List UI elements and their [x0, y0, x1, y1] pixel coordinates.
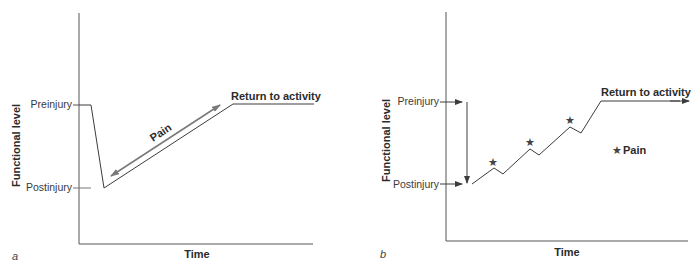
tick-label-preinjury: Preinjury [398, 95, 440, 107]
panel-letter-a: a [12, 250, 18, 262]
tick-label-postinjury: Postinjury [393, 178, 440, 190]
x-axis-title: Time [554, 246, 579, 258]
pain-arrow [111, 105, 220, 176]
pain-star-icon: ★ [488, 156, 498, 168]
panel-a: Functional level Preinjury Postinjury Pa… [10, 13, 322, 262]
legend-pain-label: Pain [623, 144, 647, 156]
pain-star-icon: ★ [565, 114, 575, 126]
return-to-activity-label: Return to activity [231, 90, 322, 102]
x-axis-title: Time [184, 248, 209, 260]
tick-label-postinjury: Postinjury [26, 181, 73, 193]
tick-label-preinjury: Preinjury [31, 98, 73, 110]
panel-b: Functional level Preinjury Postinjury ★ … [380, 12, 692, 260]
y-axis-title: Functional level [10, 104, 22, 187]
legend-star-icon: ★ [612, 144, 622, 156]
functional-level-line [79, 104, 314, 188]
panel-letter-b: b [380, 248, 386, 260]
return-to-activity-label: Return to activity [601, 86, 692, 98]
functional-level-line [472, 101, 680, 184]
pain-label: Pain [148, 121, 174, 144]
pain-star-icon: ★ [525, 136, 535, 148]
y-axis-title: Functional level [380, 99, 392, 182]
figure: Functional level Preinjury Postinjury Pa… [0, 0, 700, 271]
